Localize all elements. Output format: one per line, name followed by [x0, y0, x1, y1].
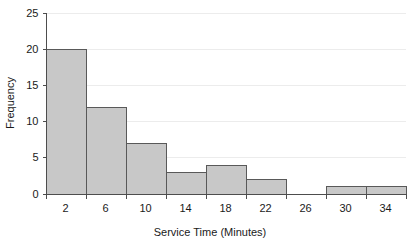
x-axis-title: Service Time (Minutes) [154, 226, 266, 238]
y-axis [43, 14, 47, 195]
y-tick-label: 10 [26, 115, 38, 127]
y-tick-label: 0 [32, 188, 38, 200]
x-axis [47, 195, 407, 199]
x-tick-label: 14 [179, 202, 191, 214]
x-tick-label: 10 [139, 202, 151, 214]
x-tick-label: 34 [379, 202, 391, 214]
y-tick-label: 25 [26, 7, 38, 19]
histogram-bar [327, 187, 367, 195]
x-tick-label: 26 [299, 202, 311, 214]
histogram-chart: 0510152025 2610141822263034 Service Time… [0, 0, 412, 243]
x-tick-labels: 2610141822263034 [62, 202, 391, 214]
y-tick-label: 5 [32, 151, 38, 163]
y-tick-label: 15 [26, 79, 38, 91]
histogram-bar [127, 144, 167, 195]
x-tick-label: 18 [219, 202, 231, 214]
x-tick-label: 22 [259, 202, 271, 214]
x-tick-label: 6 [102, 202, 108, 214]
histogram-bar [247, 180, 287, 195]
histogram-bar [367, 187, 407, 195]
histogram-bar [47, 50, 87, 195]
histogram-bar [207, 166, 247, 195]
histogram-bar [167, 173, 207, 195]
x-tick-label: 30 [339, 202, 351, 214]
x-tick-label: 2 [62, 202, 68, 214]
y-tick-label: 20 [26, 43, 38, 55]
chart-svg: 0510152025 2610141822263034 Service Time… [0, 0, 412, 243]
y-axis-title: Frequency [4, 77, 16, 129]
histogram-bar [87, 108, 127, 195]
y-tick-labels: 0510152025 [26, 7, 38, 200]
